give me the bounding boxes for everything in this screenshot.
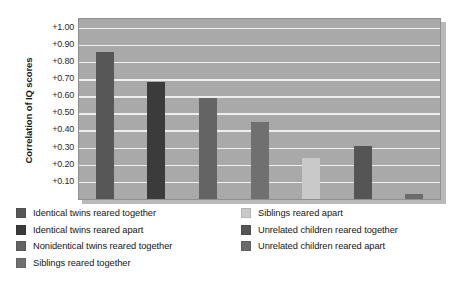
y-axis-tick-label: +0.30: [52, 142, 74, 152]
legend-swatch-icon: [16, 241, 26, 251]
legend-item: Unrelated children reared together: [241, 222, 456, 239]
legend-label: Unrelated children reared apart: [258, 241, 385, 251]
bar: [147, 82, 165, 199]
legend-column-right: Siblings reared apartUnrelated children …: [241, 205, 456, 255]
legend-label: Unrelated children reared together: [258, 225, 398, 235]
legend-item: Siblings reared together: [16, 255, 236, 272]
y-axis-tick-label: +0.60: [52, 90, 74, 100]
y-axis-tick-label: +0.20: [52, 159, 74, 169]
bar-series: [79, 19, 440, 199]
bar: [251, 122, 269, 199]
legend-item: Identical twins reared together: [16, 205, 236, 222]
y-axis-tick-label: +0.40: [52, 124, 74, 134]
legend-column-left: Identical twins reared togetherIdentical…: [16, 205, 236, 271]
y-axis-tick-label: +1.00: [52, 22, 74, 32]
legend-item: Nonidentical twins reared together: [16, 238, 236, 255]
chart-figure: Correlation of IQ scores +1.00+0.90+0.80…: [0, 0, 457, 297]
bar: [302, 158, 320, 199]
bar: [405, 194, 423, 199]
legend-swatch-icon: [241, 208, 251, 218]
legend-swatch-icon: [16, 225, 26, 235]
y-axis-tick-label: +0.90: [52, 39, 74, 49]
legend-item: Unrelated children reared apart: [241, 238, 456, 255]
legend-label: Siblings reared apart: [258, 208, 343, 218]
legend-swatch-icon: [241, 241, 251, 251]
legend-swatch-icon: [241, 225, 251, 235]
bar: [96, 52, 114, 199]
chart-legend: Identical twins reared togetherIdentical…: [16, 205, 446, 291]
legend-label: Siblings reared together: [33, 258, 131, 268]
y-axis-tick-label: +0.10: [52, 176, 74, 186]
y-axis-tick-labels: +1.00+0.90+0.80+0.70+0.60+0.50+0.40+0.30…: [28, 18, 74, 200]
y-axis-tick-label: +0.50: [52, 107, 74, 117]
legend-label: Identical twins reared together: [33, 208, 156, 218]
legend-label: Nonidentical twins reared together: [33, 241, 172, 251]
legend-label: Identical twins reared apart: [33, 225, 143, 235]
legend-item: Identical twins reared apart: [16, 222, 236, 239]
legend-item: Siblings reared apart: [241, 205, 456, 222]
bar: [199, 98, 217, 199]
plot-area-wrapper: [78, 18, 442, 200]
bar: [354, 146, 372, 199]
plot-area: [78, 18, 441, 200]
y-axis-tick-label: +0.70: [52, 73, 74, 83]
y-axis-tick-label: +0.80: [52, 56, 74, 66]
legend-swatch-icon: [16, 208, 26, 218]
legend-swatch-icon: [16, 258, 26, 268]
